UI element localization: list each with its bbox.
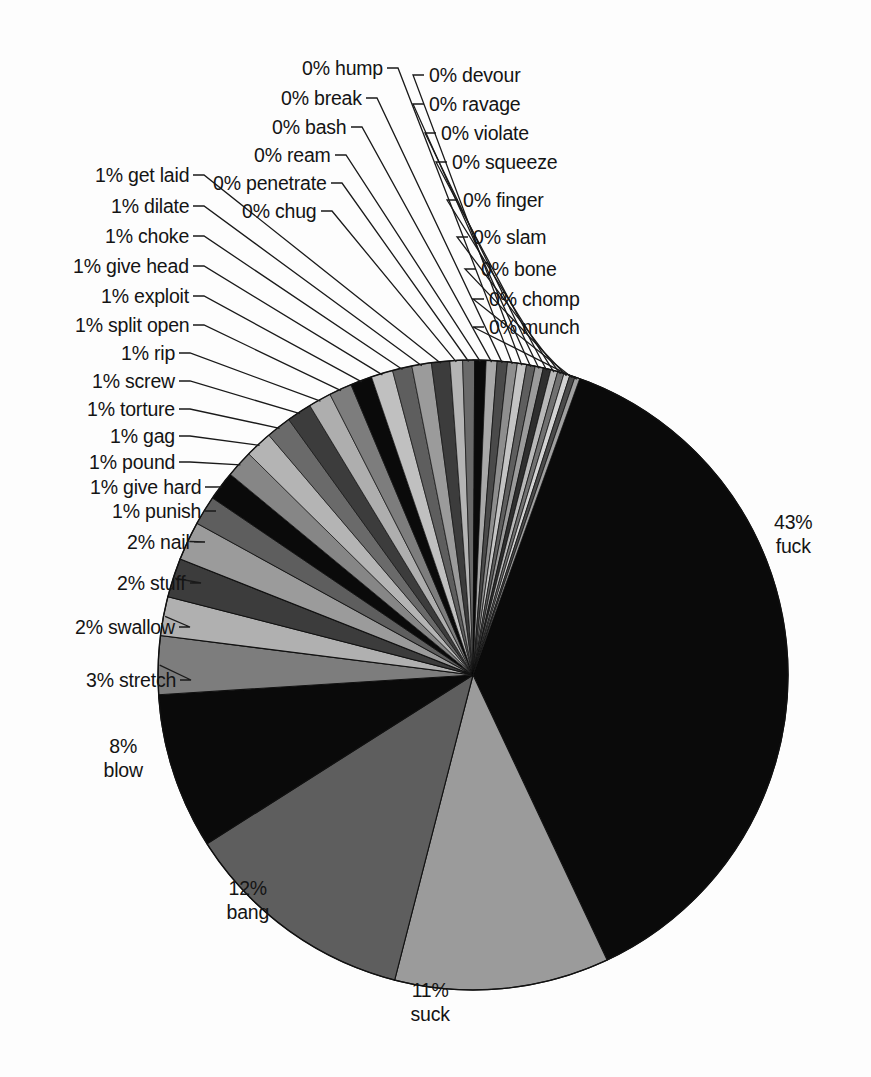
pie-label-bash: 0% bash (272, 116, 347, 139)
pie-label-line: 1% gag (110, 425, 175, 447)
pie-label-line: fuck (776, 535, 811, 557)
pie-label-line: 0% devour (429, 64, 520, 86)
pie-label-line: suck (411, 1003, 450, 1025)
pie-label-line: 0% squeeze (452, 151, 557, 173)
pie-label-split-open: 1% split open (75, 314, 189, 337)
pie-label-line: 0% penetrate (213, 172, 327, 194)
pie-label-line: blow (104, 759, 143, 781)
pie-label-exploit: 1% exploit (101, 285, 189, 308)
pie-label-line: 1% dilate (111, 195, 189, 217)
pie-label-line: 0% bash (272, 116, 347, 138)
pie-label-ravage: 0% ravage (429, 93, 520, 116)
pie-label-fuck: 43%fuck (774, 510, 812, 558)
pie-label-munch: 0% munch (489, 316, 580, 339)
pie-label-line: 1% screw (92, 370, 175, 392)
pie-label-line: 1% get laid (95, 164, 189, 186)
pie-label-ream: 0% ream (254, 144, 331, 167)
pie-label-line: 1% split open (75, 314, 189, 336)
pie-label-line: 43% (774, 511, 812, 533)
pie-label-stuff: 2% stuff (117, 572, 186, 595)
pie-label-chomp: 0% chomp (489, 288, 580, 311)
pie-label-line: 1% choke (105, 225, 189, 247)
pie-label-violate: 0% violate (441, 122, 529, 145)
pie-label-line: 0% finger (463, 189, 544, 211)
pie-label-line: 0% hump (302, 57, 383, 79)
pie-label-finger: 0% finger (463, 189, 544, 212)
pie-label-line: 11% (412, 979, 449, 1001)
pie-label-line: 2% nail (127, 531, 190, 553)
leader-line-gag (179, 436, 260, 445)
pie-label-line: 0% munch (489, 316, 580, 338)
pie-label-nail: 2% nail (127, 531, 190, 554)
leader-line-torture (179, 409, 280, 428)
pie-label-line: 0% slam (473, 226, 546, 248)
pie-label-line: 0% ravage (429, 93, 520, 115)
pie-label-get-laid: 1% get laid (95, 164, 189, 187)
pie-label-line: 1% punish (112, 500, 201, 522)
pie-label-line: 2% stuff (117, 572, 186, 594)
pie-label-gag: 1% gag (110, 425, 175, 448)
pie-label-line: 8% (109, 735, 137, 757)
leader-line-give-head (193, 266, 382, 375)
pie-label-penetrate: 0% penetrate (213, 172, 327, 195)
pie-label-line: 12% (229, 877, 267, 899)
pie-label-stretch: 3% stretch (86, 669, 176, 692)
pie-label-hump: 0% hump (302, 57, 383, 80)
pie-label-line: 0% chomp (489, 288, 580, 310)
pie-label-slam: 0% slam (473, 226, 546, 249)
pie-label-swallow: 2% swallow (75, 616, 175, 639)
pie-label-break: 0% break (281, 87, 362, 110)
pie-label-suck: 11%suck (411, 978, 450, 1026)
pie-label-line: 0% break (281, 87, 362, 109)
pie-label-line: 1% give head (73, 255, 189, 277)
pie-label-bone: 0% bone (481, 258, 557, 281)
pie-label-blow: 8%blow (104, 734, 143, 782)
pie-label-line: 3% stretch (86, 669, 176, 691)
leader-line-pound (179, 462, 240, 465)
leader-line-nail (189, 542, 205, 543)
pie-label-give-hard: 1% give hard (90, 476, 201, 499)
pie-label-line: bang (227, 901, 270, 923)
pie-label-chug: 0% chug (242, 200, 317, 223)
pie-label-line: 0% bone (481, 258, 557, 280)
leader-line-chug (321, 211, 456, 362)
pie-chart-page: 43%fuck11%suck12%bang8%blow1% get laid1%… (0, 0, 871, 1077)
pie-label-bang: 12%bang (227, 876, 270, 924)
pie-label-choke: 1% choke (105, 225, 189, 248)
leader-line-exploit (193, 296, 362, 382)
pie-label-punish: 1% punish (112, 500, 201, 523)
pie-label-line: 1% rip (121, 342, 175, 364)
pie-label-line: 0% violate (441, 122, 529, 144)
pie-label-dilate: 1% dilate (111, 195, 189, 218)
pie-label-line: 1% torture (87, 398, 175, 420)
leader-line-ream (335, 155, 480, 362)
leader-line-screw (179, 381, 300, 414)
pie-label-screw: 1% screw (92, 370, 175, 393)
pie-label-squeeze: 0% squeeze (452, 151, 557, 174)
pie-label-rip: 1% rip (121, 342, 175, 365)
pie-label-line: 1% give hard (90, 476, 201, 498)
pie-label-line: 0% chug (242, 200, 317, 222)
pie-label-line: 1% pound (89, 451, 175, 473)
leader-line-dilate (193, 206, 422, 366)
pie-label-give-head: 1% give head (73, 255, 189, 278)
pie-label-torture: 1% torture (87, 398, 175, 421)
pie-label-pound: 1% pound (89, 451, 175, 474)
pie-label-line: 0% ream (254, 144, 331, 166)
pie-label-devour: 0% devour (429, 64, 520, 87)
pie-label-line: 2% swallow (75, 616, 175, 638)
leader-line-choke (193, 236, 403, 370)
leader-line-rip (179, 353, 321, 401)
pie-label-line: 1% exploit (101, 285, 189, 307)
